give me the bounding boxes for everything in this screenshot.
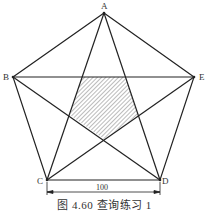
pentagon-diagram: A B E C D 100 bbox=[0, 0, 209, 214]
figure-caption: 图 4.60 查询练习 1 bbox=[0, 196, 209, 212]
label-a: A bbox=[101, 1, 108, 11]
label-c: C bbox=[37, 176, 43, 186]
label-e: E bbox=[199, 72, 205, 82]
label-d: D bbox=[162, 176, 169, 186]
label-b: B bbox=[3, 72, 9, 82]
dimension-label: 100 bbox=[96, 183, 108, 192]
hatched-inner-pentagon bbox=[70, 77, 138, 139]
